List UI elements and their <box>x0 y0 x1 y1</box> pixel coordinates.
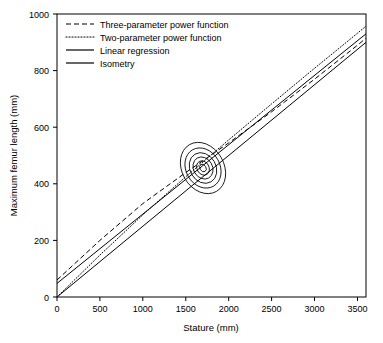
plot-frame <box>57 14 366 297</box>
legend-label-three-parameter-power-function: Three-parameter power function <box>100 20 229 30</box>
x-axis-tick-labels: 0 500 1000 1500 2000 2500 3000 3500 <box>54 304 367 314</box>
legend-label-isometry: Isometry <box>100 59 135 69</box>
x-tick-label: 2000 <box>219 304 239 314</box>
data-density-contour <box>171 134 234 202</box>
y-axis-tick-labels: 0 200 400 600 800 1000 <box>29 10 49 303</box>
chart-container: 0 200 400 600 800 1000 0 500 1000 1500 2… <box>0 0 383 343</box>
x-tick-label: 3500 <box>347 304 367 314</box>
y-axis-label: Maximum femur length (mm) <box>8 95 19 216</box>
x-tick-label: 1000 <box>133 304 153 314</box>
scatter-plot-figure: 0 200 400 600 800 1000 0 500 1000 1500 2… <box>0 0 383 343</box>
series-linear-regression <box>57 34 366 284</box>
x-tick-label: 500 <box>92 304 107 314</box>
y-tick-label: 200 <box>34 236 49 246</box>
x-tick-label: 0 <box>54 304 59 314</box>
y-tick-label: 1000 <box>29 10 49 20</box>
series-isometry <box>57 42 366 297</box>
y-tick-label: 800 <box>34 66 49 76</box>
y-axis-ticks <box>53 14 57 297</box>
legend: Three-parameter power function Two-param… <box>66 20 229 69</box>
y-tick-label: 400 <box>34 179 49 189</box>
x-axis-ticks <box>57 297 358 301</box>
x-tick-label: 1500 <box>176 304 196 314</box>
legend-label-linear-regression: Linear regression <box>100 46 170 56</box>
x-tick-label: 3000 <box>304 304 324 314</box>
y-tick-label: 600 <box>34 123 49 133</box>
legend-label-two-parameter-power-function: Two-parameter power function <box>100 33 222 43</box>
y-tick-label: 0 <box>44 293 49 303</box>
x-tick-label: 2500 <box>262 304 282 314</box>
x-axis-label: Stature (mm) <box>183 322 238 333</box>
